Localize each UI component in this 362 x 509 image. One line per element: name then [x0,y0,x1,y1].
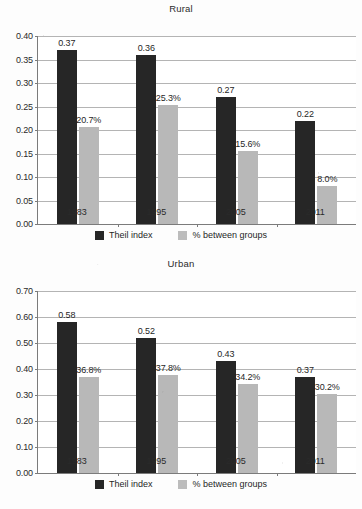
bar-value-label: 25.3% [156,93,181,103]
y-tick-label: 0.10 [16,442,33,452]
gridline [38,317,356,318]
x-tick-mark [197,224,198,227]
plot-box: 0.5836.8%0.5237.8%0.4334.2%0.3730.2% [37,291,356,474]
x-tick-label: 1983 [67,207,87,217]
bar-value-label: 0.43 [217,349,234,359]
y-tick-label: 0.15 [16,149,33,159]
x-tick-label: 1983 [67,456,87,466]
bar-2011-pct-between-groups[interactable] [317,186,337,224]
bar-value-label: 37.8% [156,363,181,373]
y-tick-label: 0.05 [16,196,33,206]
gridline [38,291,356,292]
bar-value-label: 15.6% [235,139,260,149]
y-tick-mark [35,201,38,202]
y-tick-label: 0.50 [16,338,33,348]
y-tick-mark [35,224,38,225]
y-tick-label: 0.20 [16,416,33,426]
bar-value-label: 20.7% [76,115,101,125]
y-tick-mark [35,60,38,61]
bar-value-label: 0.37 [58,38,75,48]
legend-item-theil-index[interactable]: Theil index [95,479,153,489]
y-tick-mark [35,36,38,37]
x-tick-mark [277,224,278,227]
bar-value-label: 36.8% [76,365,101,375]
y-tick-mark [35,317,38,318]
gridline [38,343,356,344]
gridline [38,107,356,108]
y-tick-mark [35,154,38,155]
bar-value-label: 0.27 [217,85,234,95]
legend: Theil index% between groups [0,230,362,240]
x-tick-mark [197,473,198,476]
legend-swatch-icon [95,480,104,489]
plot-area-urban: 0.000.100.200.300.400.500.600.700.5836.8… [0,271,362,471]
y-tick-mark [35,447,38,448]
y-tick-label: 0.35 [16,55,33,65]
y-tick-label: 0.00 [16,468,33,478]
bar-2005-theil-index[interactable] [216,97,236,224]
gridline [38,60,356,61]
y-tick-mark [35,130,38,131]
bar-1983-theil-index[interactable] [57,50,77,224]
bar-value-label: 34.2% [235,372,260,382]
gridline [38,36,356,37]
x-tick-label: 2011 [306,456,325,466]
y-tick-mark [35,177,38,178]
x-tick-label: 2011 [306,207,325,217]
legend-item-theil-index[interactable]: Theil index [95,230,153,240]
x-tick-mark [118,224,119,227]
x-tick-label: 2005 [226,207,246,217]
legend-label: % between groups [192,230,267,240]
y-axis-labels: 0.000.050.100.150.200.250.300.350.40 [0,36,33,224]
x-tick-mark [118,473,119,476]
bar-value-label: 30.2% [315,382,340,392]
y-tick-label: 0.00 [16,219,33,229]
y-axis-labels: 0.000.100.200.300.400.500.600.70 [0,291,33,473]
y-tick-label: 0.40 [16,31,33,41]
bar-value-label: 0.37 [297,365,314,375]
y-tick-mark [35,107,38,108]
bar-1995-theil-index[interactable] [136,55,156,224]
legend-swatch-icon [178,480,187,489]
legend-label: % between groups [192,479,267,489]
y-tick-mark [35,343,38,344]
x-tick-label: 1995 [146,207,166,217]
x-tick-mark [277,473,278,476]
y-tick-mark [35,369,38,370]
bar-1983-theil-index[interactable] [57,322,77,473]
x-tick-label: 2005 [226,456,246,466]
bar-value-label: 0.36 [138,43,155,53]
legend-swatch-icon [178,231,187,240]
plot-area-rural: 0.000.050.100.150.200.250.300.350.400.37… [0,16,362,216]
legend-item-pct-between-groups[interactable]: % between groups [178,230,267,240]
y-tick-mark [35,83,38,84]
y-tick-label: 0.20 [16,125,33,135]
gridline [38,83,356,84]
legend-item-pct-between-groups[interactable]: % between groups [178,479,267,489]
y-tick-label: 0.30 [16,78,33,88]
bar-value-label: 8.0% [317,174,337,184]
legend-label: Theil index [109,479,153,489]
chart-title-rural: Rural [0,0,362,14]
y-tick-mark [35,291,38,292]
bar-value-label: 0.58 [58,310,75,320]
y-tick-label: 0.40 [16,364,33,374]
y-tick-label: 0.25 [16,102,33,112]
y-tick-mark [35,421,38,422]
x-tick-label: 1995 [146,456,166,466]
bar-value-label: 0.52 [138,326,155,336]
y-tick-label: 0.70 [16,286,33,296]
legend-swatch-icon [95,231,104,240]
bar-1995-theil-index[interactable] [136,338,156,473]
y-tick-mark [35,395,38,396]
chart-title-urban: Urban [0,255,362,269]
legend-label: Theil index [109,230,153,240]
bar-value-label: 0.22 [297,109,314,119]
y-tick-mark [35,473,38,474]
y-tick-label: 0.60 [16,312,33,322]
legend: Theil index% between groups [0,479,362,489]
y-tick-label: 0.10 [16,172,33,182]
y-tick-label: 0.30 [16,390,33,400]
plot-box: 0.3720.7%0.3625.3%0.2715.6%0.228.0% [37,36,356,225]
